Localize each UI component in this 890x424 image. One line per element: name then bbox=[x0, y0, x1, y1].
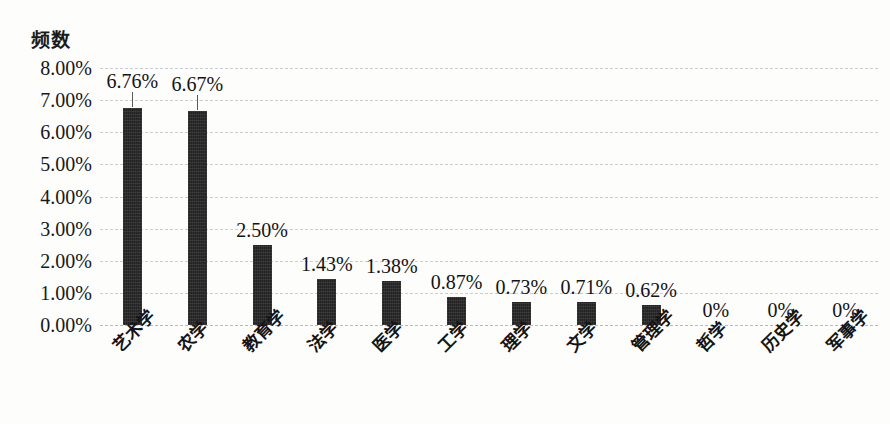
leader-line bbox=[197, 95, 198, 110]
y-axis-tick-label: 3.00% bbox=[0, 217, 92, 240]
bar-value-label: 6.67% bbox=[171, 73, 223, 96]
y-axis-tick-label: 5.00% bbox=[0, 153, 92, 176]
y-axis-tick-label: 1.00% bbox=[0, 281, 92, 304]
bar-chart: 频数 8.00%7.00%6.00%5.00%4.00%3.00%2.00%1.… bbox=[0, 0, 890, 424]
bar-value-label: 1.43% bbox=[301, 253, 353, 276]
gridline bbox=[100, 100, 878, 101]
y-axis-tick-label: 2.00% bbox=[0, 249, 92, 272]
bar-value-label: 0.73% bbox=[496, 276, 548, 299]
bar bbox=[123, 108, 142, 325]
y-axis-tick-label: 0.00% bbox=[0, 314, 92, 337]
bar-value-label: 0.71% bbox=[560, 276, 612, 299]
gridline bbox=[100, 293, 878, 294]
y-axis-tick-label: 4.00% bbox=[0, 185, 92, 208]
gridline bbox=[100, 229, 878, 230]
bar-value-label: 0.87% bbox=[431, 271, 483, 294]
gridline bbox=[100, 325, 878, 326]
gridline bbox=[100, 261, 878, 262]
gridline bbox=[100, 132, 878, 133]
y-axis-tick-label: 8.00% bbox=[0, 57, 92, 80]
gridline bbox=[100, 164, 878, 165]
y-axis-tick-label: 7.00% bbox=[0, 89, 92, 112]
bar-value-label: 2.50% bbox=[236, 219, 288, 242]
gridline bbox=[100, 197, 878, 198]
bar bbox=[188, 111, 207, 325]
gridline bbox=[100, 68, 878, 69]
bar-value-label: 6.76% bbox=[107, 70, 159, 93]
bar-value-label: 0.62% bbox=[625, 279, 677, 302]
plot-area: 6.76%6.67%2.50%1.43%1.38%0.87%0.73%0.71%… bbox=[100, 68, 878, 325]
y-axis-tick-label: 6.00% bbox=[0, 121, 92, 144]
y-axis-title: 频数 bbox=[31, 25, 71, 52]
bar-value-label: 1.38% bbox=[366, 255, 418, 278]
leader-line bbox=[132, 92, 133, 107]
